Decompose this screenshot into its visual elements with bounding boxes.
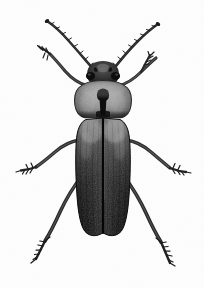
beetle-illustration bbox=[0, 0, 204, 288]
beetle-specimen-figure bbox=[0, 0, 204, 288]
image-grain-overlay bbox=[0, 0, 204, 288]
